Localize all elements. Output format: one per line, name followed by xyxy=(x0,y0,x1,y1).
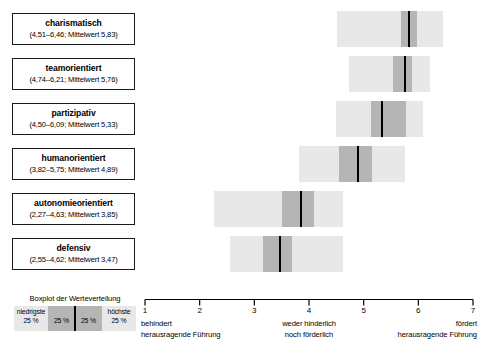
axis-anchor-left-line2: herausragende Führung xyxy=(141,330,220,340)
legend-pct-q2: 25 % xyxy=(48,317,75,325)
legend-box: niedrigste 25 % 25 % 25 % höchste 25 % xyxy=(14,306,136,331)
legend-pct-highest: 25 % xyxy=(102,317,136,325)
boxplot-whisker-range xyxy=(349,56,429,92)
category-label-range: (4,74–6,21; Mittelwert 5,76) xyxy=(29,76,117,84)
category-label-box-autonomieorientiert: autonomieorientiert (2,27–4,63; Mittelwe… xyxy=(12,193,135,225)
boxplot-figure: charismatisch (4,51–6,46; Mittelwert 5,8… xyxy=(0,0,483,345)
axis-anchor-mid-line2: noch förderlich xyxy=(285,330,333,340)
category-label-box-partizipativ: partizipativ (4,50–6,09; Mittelwert 5,33… xyxy=(12,103,135,135)
legend-pct-lowest: 25 % xyxy=(14,317,48,325)
category-label-range: (4,50–6,09; Mittelwert 5,33) xyxy=(29,121,117,129)
boxplot-whisker-range xyxy=(337,11,444,47)
axis-ticks xyxy=(145,300,473,306)
category-label-title: partizipativ xyxy=(51,109,95,118)
category-label-box-defensiv: defensiv (2,55–4,62; Mittelwert 3,47) xyxy=(12,238,135,270)
axis-tick-label-1: 1 xyxy=(135,306,155,315)
axis-tick-label-7: 7 xyxy=(463,306,483,315)
category-label-range: (2,55–4,62; Mittelwert 3,47) xyxy=(29,256,117,264)
boxplot-mean-line xyxy=(381,101,383,137)
legend-label-highest: höchste xyxy=(102,308,136,316)
axis-anchor-right-line2: herausragende Führung xyxy=(398,330,477,340)
category-label-range: (3,82–5,75; Mittelwert 4,89) xyxy=(29,166,117,174)
boxplot-iqr-box xyxy=(393,56,412,92)
axis-anchor-left-line1: behindert xyxy=(141,319,172,329)
boxplot-mean-line xyxy=(404,56,406,92)
legend-title: Boxplot der Werteverteilung xyxy=(14,294,136,303)
boxplot-legend: Boxplot der Werteverteilung niedrigste 2… xyxy=(14,294,136,331)
legend-label-lowest: niedrigste xyxy=(14,308,48,316)
boxplot-iqr-box xyxy=(282,191,315,227)
boxplot-iqr-box xyxy=(263,236,291,272)
category-label-title: charismatisch xyxy=(45,19,102,28)
boxplot-mean-line xyxy=(279,236,281,272)
axis-anchor-right-line1: fördert xyxy=(456,319,477,329)
category-label-box-charismatisch: charismatisch (4,51–6,46; Mittelwert 5,8… xyxy=(12,13,135,45)
axis-tick-label-6: 6 xyxy=(408,306,428,315)
boxplot-mean-line xyxy=(408,11,410,47)
axis-tick-label-4: 4 xyxy=(299,306,319,315)
category-label-title: defensiv xyxy=(56,244,90,253)
category-label-title: humanorientiert xyxy=(42,154,106,163)
boxplot-whisker-range xyxy=(214,191,343,227)
legend-pct-q3: 25 % xyxy=(75,317,102,325)
axis-tick-label-3: 3 xyxy=(244,306,264,315)
axis-tick-label-5: 5 xyxy=(354,306,374,315)
boxplot-iqr-box xyxy=(371,101,407,137)
category-label-box-teamorientiert: teamorientiert (4,74–6,21; Mittelwert 5,… xyxy=(12,58,135,90)
axis-anchor-mid-line1: weder hinderlich xyxy=(282,319,336,329)
category-label-range: (4,51–6,46; Mittelwert 5,83) xyxy=(29,31,117,39)
axis-tick-label-2: 2 xyxy=(190,306,210,315)
boxplot-mean-line xyxy=(300,191,302,227)
boxplot-mean-line xyxy=(357,146,359,182)
category-label-range: (2,27–4,63; Mittelwert 3,85) xyxy=(29,211,117,219)
category-label-title: teamorientiert xyxy=(46,64,102,73)
category-label-box-humanorientiert: humanorientiert (3,82–5,75; Mittelwert 4… xyxy=(12,148,135,180)
boxplot-iqr-box xyxy=(339,146,372,182)
category-label-title: autonomieorientiert xyxy=(34,199,113,208)
